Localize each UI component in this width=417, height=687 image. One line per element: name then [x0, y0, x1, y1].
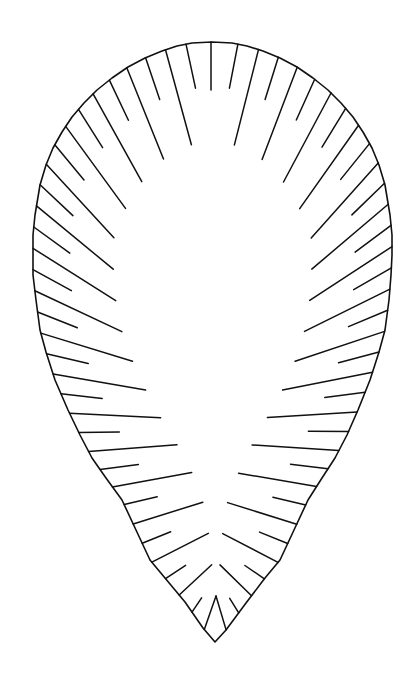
- hatch-line-right-6: [228, 503, 297, 525]
- hatch-line-left-25: [55, 145, 84, 180]
- hatch-line-left-5: [142, 532, 171, 544]
- hatch-line-left-6: [133, 502, 203, 524]
- hatch-line-right-9: [291, 464, 329, 469]
- hatch-line-right-10: [252, 445, 339, 451]
- hatch-line-right-5: [260, 532, 288, 543]
- hatch-line-right-13: [325, 392, 365, 397]
- hatch-line-left-14: [53, 374, 146, 390]
- hatch-line-right-3: [245, 566, 265, 579]
- hatch-line-right-21: [355, 225, 391, 252]
- hatch-line-right-31: [265, 57, 278, 99]
- hatch-line-right-12: [267, 412, 357, 418]
- hatch-line-right-29: [296, 79, 314, 120]
- hatch-line-left-15: [47, 354, 89, 364]
- hatch-line-right-4: [223, 534, 278, 563]
- hatch-line-right-27: [322, 108, 346, 147]
- hatch-line-left-32: [166, 50, 192, 145]
- hatch-line-left-1: [192, 598, 202, 612]
- teardrop-outline: [33, 42, 392, 642]
- hatch-line-left-2: [179, 565, 212, 595]
- hatch-line-left-4: [152, 533, 208, 562]
- hatch-line-left-16: [41, 333, 133, 361]
- hatch-line-left-31: [146, 58, 160, 100]
- teardrop-figure: [0, 0, 417, 687]
- hatch-line-left-19: [33, 270, 71, 291]
- hatch-line-left-17: [38, 312, 78, 328]
- hatch-line-left-30: [127, 68, 164, 159]
- hatch-line-left-21: [34, 227, 70, 253]
- hatch-line-left-23: [40, 185, 73, 216]
- hatch-line-right-8: [239, 473, 317, 486]
- hatch-lines-right: [216, 44, 392, 630]
- hatch-line-right-28: [284, 93, 332, 182]
- hatch-line-right-16: [295, 331, 385, 361]
- hatch-line-right-1: [230, 598, 239, 613]
- hatch-line-left-28: [93, 94, 142, 182]
- hatch-line-right-2: [220, 565, 252, 596]
- hatch-line-left-7: [124, 497, 157, 505]
- hatch-line-left-33: [186, 44, 196, 88]
- hatch-line-left-0: [204, 596, 216, 630]
- hatch-line-right-30: [262, 67, 297, 159]
- hatch-line-right-15: [339, 352, 379, 363]
- hatch-line-left-27: [79, 109, 103, 147]
- hatch-line-right-19: [354, 268, 392, 290]
- hatch-line-left-29: [109, 80, 128, 120]
- hatch-line-left-12: [70, 413, 161, 417]
- hatch-lines-left: [33, 44, 216, 629]
- hatch-line-right-17: [349, 310, 388, 326]
- hatch-line-left-11: [79, 432, 120, 433]
- hatch-line-left-20: [33, 248, 116, 300]
- hatch-line-right-33: [229, 44, 238, 88]
- hatch-line-left-13: [61, 394, 102, 399]
- hatch-line-right-0: [216, 596, 226, 630]
- hatch-line-right-7: [273, 497, 306, 505]
- hatch-line-right-25: [341, 144, 370, 180]
- hatch-line-left-8: [112, 473, 191, 487]
- hatch-line-right-14: [283, 372, 373, 390]
- hatch-line-left-9: [100, 464, 138, 469]
- hatch-line-left-3: [166, 565, 186, 578]
- hatch-line-right-20: [310, 247, 392, 301]
- hatch-line-left-10: [89, 445, 177, 452]
- hatch-line-right-32: [234, 50, 258, 145]
